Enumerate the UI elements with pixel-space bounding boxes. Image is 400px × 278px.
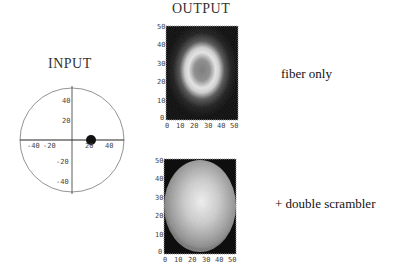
plot2-x-tick: 20 xyxy=(188,256,196,264)
input-x-tick: -40 xyxy=(27,142,40,150)
plot2-x-tick: 10 xyxy=(174,256,182,264)
diagram-graphics xyxy=(0,0,400,278)
output-plot-double-scrambler xyxy=(164,159,236,254)
plot2-y-tick: 20 xyxy=(155,212,163,220)
plot1-x-tick: 20 xyxy=(190,122,198,130)
input-x-tick: -20 xyxy=(43,142,56,150)
plot2-y-tick: 30 xyxy=(155,194,163,202)
plot2-x-tick: 40 xyxy=(215,256,223,264)
plot1-y-tick: 40 xyxy=(157,41,165,49)
input-y-tick: 20 xyxy=(62,117,70,125)
input-y-tick: -20 xyxy=(56,158,69,166)
plot1-y-tick: 10 xyxy=(157,97,165,105)
plot2-y-tick: 40 xyxy=(155,175,163,183)
input-y-tick: -40 xyxy=(56,178,69,186)
plot2-x-tick: 30 xyxy=(202,256,210,264)
double-scrambler-label: + double scrambler xyxy=(275,196,375,212)
input-x-tick: 20 xyxy=(85,142,93,150)
plot1-y-tick: 30 xyxy=(157,60,165,68)
fiber-only-label: fiber only xyxy=(281,66,332,82)
input-x-tick: 40 xyxy=(105,142,113,150)
input-aperture-plot xyxy=(20,86,124,194)
plot2-y-tick: 0 xyxy=(158,248,162,256)
plot1-y-tick: 50 xyxy=(157,23,165,31)
plot1-x-tick: 50 xyxy=(230,122,238,130)
plot1-x-tick: 40 xyxy=(217,122,225,130)
plot2-x-tick: 50 xyxy=(228,256,236,264)
input-y-tick: 40 xyxy=(62,97,70,105)
plot1-x-tick: 0 xyxy=(165,122,169,130)
plot2-y-tick: 10 xyxy=(155,231,163,239)
plot2-x-tick: 0 xyxy=(163,256,167,264)
output-title: OUTPUT xyxy=(172,1,230,17)
plot1-x-tick: 30 xyxy=(204,122,212,130)
plot1-y-tick: 20 xyxy=(157,78,165,86)
plot1-x-tick: 10 xyxy=(176,122,184,130)
output-plot-fiber-only xyxy=(166,26,238,120)
plot1-y-tick: 0 xyxy=(160,114,164,122)
plot2-y-tick: 50 xyxy=(155,157,163,165)
